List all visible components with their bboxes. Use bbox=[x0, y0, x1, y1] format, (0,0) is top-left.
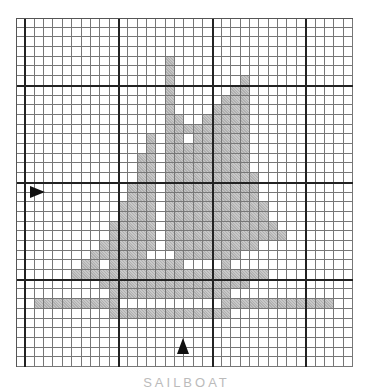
stitch-cell bbox=[269, 96, 278, 106]
stitch-cell-filled bbox=[166, 86, 175, 96]
stitch-cell bbox=[325, 144, 334, 154]
stitch-cell-filled bbox=[175, 212, 184, 222]
stitch-cell bbox=[35, 105, 44, 115]
stitch-cell-filled bbox=[213, 134, 222, 144]
stitch-cell-filled bbox=[231, 125, 240, 135]
stitch-cell bbox=[44, 134, 53, 144]
stitch-cell bbox=[100, 57, 109, 67]
stitch-cell bbox=[72, 154, 81, 164]
stitch-cell bbox=[334, 202, 343, 212]
stitch-cell bbox=[53, 212, 62, 222]
stitch-cell bbox=[147, 18, 156, 28]
stitch-cell bbox=[334, 212, 343, 222]
stitch-cell bbox=[44, 144, 53, 154]
stitch-cell bbox=[259, 251, 268, 261]
stitch-cell bbox=[82, 86, 91, 96]
stitch-cell bbox=[63, 86, 72, 96]
stitch-cell-filled bbox=[194, 144, 203, 154]
stitch-cell bbox=[128, 348, 137, 358]
stitch-cell bbox=[278, 309, 287, 319]
stitch-cell bbox=[82, 222, 91, 232]
stitch-cell bbox=[325, 231, 334, 241]
stitch-cell bbox=[334, 357, 343, 367]
stitch-cell-filled bbox=[147, 202, 156, 212]
stitch-cell-filled bbox=[213, 289, 222, 299]
stitch-cell bbox=[72, 115, 81, 125]
stitch-cell bbox=[278, 202, 287, 212]
stitch-cell-filled bbox=[231, 280, 240, 290]
stitch-cell bbox=[269, 280, 278, 290]
stitch-cell bbox=[344, 231, 353, 241]
stitch-cell-filled bbox=[147, 280, 156, 290]
stitch-cell-filled bbox=[184, 202, 193, 212]
stitch-cell bbox=[222, 28, 231, 38]
stitch-cell-filled bbox=[222, 299, 231, 309]
stitch-cell bbox=[194, 86, 203, 96]
stitch-cell bbox=[259, 18, 268, 28]
row-center-arrow-icon bbox=[30, 186, 45, 198]
stitch-cell bbox=[72, 37, 81, 47]
stitch-cell bbox=[91, 328, 100, 338]
stitch-cell bbox=[82, 115, 91, 125]
stitch-cell bbox=[269, 251, 278, 261]
stitch-cell bbox=[344, 193, 353, 203]
stitch-cell bbox=[259, 328, 268, 338]
stitch-cell-filled bbox=[138, 251, 147, 261]
stitch-cell bbox=[25, 357, 34, 367]
stitch-cell bbox=[184, 260, 193, 270]
stitch-cell bbox=[63, 105, 72, 115]
stitch-cell bbox=[278, 66, 287, 76]
stitch-cell bbox=[325, 212, 334, 222]
stitch-cell-filled bbox=[138, 193, 147, 203]
stitch-cell-filled bbox=[166, 222, 175, 232]
stitch-cell-filled bbox=[250, 202, 259, 212]
stitch-cell bbox=[100, 289, 109, 299]
stitch-cell-filled bbox=[91, 260, 100, 270]
stitch-cell bbox=[316, 251, 325, 261]
stitch-cell bbox=[259, 163, 268, 173]
stitch-cell bbox=[250, 105, 259, 115]
stitch-cell bbox=[156, 319, 165, 329]
stitch-cell-filled bbox=[259, 222, 268, 232]
stitch-cell bbox=[278, 328, 287, 338]
stitch-cell-filled bbox=[241, 86, 250, 96]
stitch-cell bbox=[53, 86, 62, 96]
stitch-cell bbox=[287, 260, 296, 270]
stitch-cell bbox=[35, 96, 44, 106]
stitch-cell bbox=[128, 96, 137, 106]
stitch-cell bbox=[156, 28, 165, 38]
stitch-cell bbox=[72, 18, 81, 28]
stitch-cell-filled bbox=[213, 222, 222, 232]
stitch-cell-filled bbox=[222, 125, 231, 135]
stitch-cell bbox=[259, 289, 268, 299]
stitch-cell bbox=[72, 28, 81, 38]
stitch-cell bbox=[72, 241, 81, 251]
stitch-cell bbox=[25, 289, 34, 299]
stitch-cell bbox=[128, 57, 137, 67]
stitch-cell bbox=[259, 115, 268, 125]
stitch-cell bbox=[156, 18, 165, 28]
stitch-cell bbox=[325, 96, 334, 106]
stitch-cell bbox=[138, 134, 147, 144]
stitch-cell bbox=[325, 357, 334, 367]
stitch-cell bbox=[334, 28, 343, 38]
stitch-cell-filled bbox=[194, 241, 203, 251]
stitch-cell bbox=[63, 57, 72, 67]
stitch-cell bbox=[278, 212, 287, 222]
stitch-cell bbox=[100, 115, 109, 125]
stitch-cell-filled bbox=[213, 202, 222, 212]
stitch-cell bbox=[119, 57, 128, 67]
stitch-cell-filled bbox=[119, 241, 128, 251]
stitch-cell bbox=[259, 28, 268, 38]
stitch-cell bbox=[63, 309, 72, 319]
stitch-cell bbox=[334, 105, 343, 115]
stitch-cell bbox=[306, 115, 315, 125]
stitch-cell bbox=[25, 348, 34, 358]
stitch-cell bbox=[147, 357, 156, 367]
stitch-cell bbox=[334, 154, 343, 164]
stitch-cell bbox=[91, 309, 100, 319]
stitch-cell bbox=[231, 47, 240, 57]
stitch-cell-filled bbox=[138, 289, 147, 299]
stitch-cell bbox=[194, 96, 203, 106]
stitch-cell bbox=[250, 357, 259, 367]
